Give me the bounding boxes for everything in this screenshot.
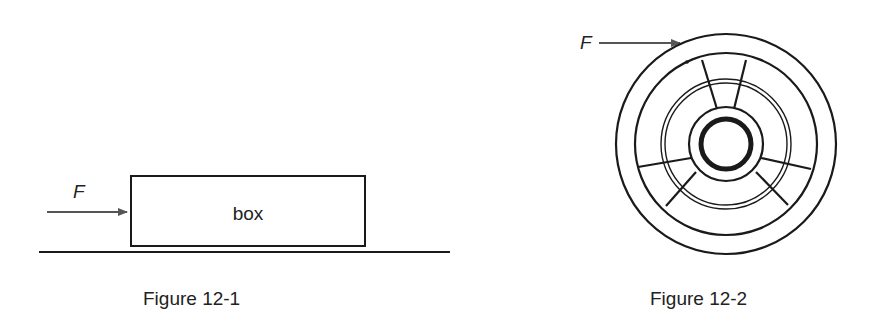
- figure-canvas: F box F: [0, 0, 870, 314]
- wheel-spokes: [638, 60, 811, 206]
- force-label-1: F: [73, 181, 86, 202]
- caption-figure-12-1: Figure 12-1: [143, 288, 240, 310]
- box-label: box: [233, 203, 264, 224]
- wheel-marker-dot: [685, 60, 689, 64]
- wheel: [616, 34, 836, 254]
- wheel-inner-rim: [635, 53, 817, 235]
- force-label-2: F: [580, 32, 593, 53]
- figure-12-1: F box: [39, 176, 450, 252]
- figure-12-2: F: [580, 32, 836, 254]
- caption-figure-12-2: Figure 12-2: [650, 288, 747, 310]
- wheel-axle: [701, 119, 751, 169]
- wheel-outer-rim: [616, 34, 836, 254]
